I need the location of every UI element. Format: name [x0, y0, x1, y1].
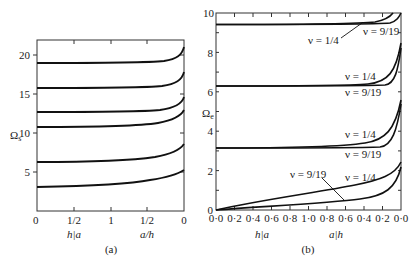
panel-b-xtick: 0·8	[283, 212, 298, 224]
panel-b-ytick-6: 6	[208, 86, 214, 98]
panel-a-xtick-0: 0	[33, 214, 39, 226]
panel-a: 5 10 15 20 Ωs 0 1/2 1 1/2 0 h|a a/h (a)	[10, 40, 187, 256]
label-m0-quarter: ν = 1/4	[345, 171, 376, 183]
panel-b-ytick-2: 2	[208, 165, 214, 177]
label-m3-quarter: ν = 1/4	[308, 34, 339, 46]
figure: 5 10 15 20 Ωs 0 1/2 1 1/2 0 h|a a/h (a)	[0, 0, 418, 258]
label-m1-quarter: ν = 1/4	[345, 128, 376, 140]
label-m0-nine: ν = 9/19	[290, 168, 327, 180]
panel-b-xtick: 0·0	[209, 212, 224, 224]
panel-b-xtick: 0·6	[264, 212, 279, 224]
panel-b: 0 2 4 6 8 10 Ωe 0·0 0·2 0·4 0·6 0·8 1·0 …	[202, 7, 409, 256]
panel-b-xtick: 1·0	[301, 212, 316, 224]
panel-a-curve-6	[37, 47, 184, 63]
label-m2-nine: ν = 9/19	[345, 86, 382, 98]
panel-b-xticks: 0·0 0·2 0·4 0·6 0·8 1·0 0·8 0·6 0·4 0·2 …	[209, 212, 409, 224]
panel-a-ytick-15: 15	[19, 88, 31, 100]
panel-b-ytick-10: 10	[203, 7, 215, 19]
panel-b-xlabel-right: a|h	[329, 228, 344, 240]
panel-a-curves	[37, 47, 184, 187]
panel-a-curve-2	[37, 144, 184, 162]
panel-a-curve-5	[37, 72, 184, 88]
panel-b-xtick: 0·4	[357, 212, 372, 224]
panel-a-curve-1	[37, 170, 184, 187]
panel-b-ytick-8: 8	[208, 47, 214, 59]
panel-b-y-ticks	[216, 33, 401, 191]
panel-a-xtick-half-l: 1/2	[67, 214, 81, 226]
panel-b-curve-m3-quarter	[216, 13, 393, 25]
panel-a-y-ticks	[33, 55, 184, 172]
panel-a-bottom-ticks	[74, 207, 147, 211]
panel-a-caption: (a)	[105, 243, 118, 256]
panel-b-xtick: 0·8	[320, 212, 335, 224]
panel-b-annotations: ν = 9/19 ν = 1/4 ν = 1/4 ν = 9/19 ν = 1/…	[290, 25, 400, 183]
panel-b-xtick: 0·2	[227, 212, 242, 224]
panel-b-xtick: 0·0	[394, 212, 409, 224]
panel-b-caption: (b)	[302, 243, 315, 256]
panel-a-xtick-0r: 0	[181, 214, 187, 226]
panel-a-top-ticks	[74, 40, 147, 44]
panel-a-ytick-20: 20	[19, 49, 31, 61]
panel-b-xtick: 0·6	[338, 212, 353, 224]
panel-a-xtick-1: 1	[108, 214, 114, 226]
panel-a-xlabel-right: a/h	[140, 228, 155, 240]
label-m2-quarter: ν = 1/4	[345, 70, 376, 82]
panel-b-xlabel-left: h|a	[255, 228, 270, 240]
panel-a-xlabel-left: h|a	[67, 228, 82, 240]
panel-b-xtick: 0·4	[246, 212, 261, 224]
label-m3-nine: ν = 9/19	[363, 25, 400, 37]
panel-b-curve-m1-quarter	[216, 100, 401, 148]
panel-b-ylabel: Ωe	[202, 107, 214, 121]
panel-a-ytick-5: 5	[25, 166, 31, 178]
panel-a-xtick-half-r: 1/2	[140, 214, 154, 226]
label-m1-nine: ν = 9/19	[345, 148, 382, 160]
panel-b-ytick-4: 4	[208, 125, 214, 137]
panel-b-xtick: 0·2	[375, 212, 390, 224]
panel-a-curve-4	[37, 97, 184, 112]
